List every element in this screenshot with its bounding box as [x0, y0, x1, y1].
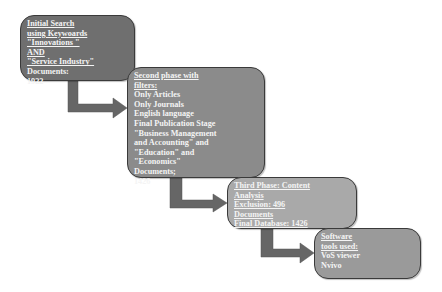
box-line: filters:	[134, 81, 258, 91]
box-line: English language	[134, 109, 258, 119]
box-line: Third Phase: Content	[234, 181, 350, 191]
box-line: "Innovations "	[27, 38, 128, 48]
box-line: Only Articles	[134, 90, 258, 100]
box-line: Documents;	[134, 167, 258, 177]
box-line: Documents:	[27, 67, 128, 77]
box-line: using Keywoards	[27, 29, 128, 39]
box-line: Initial Search	[27, 19, 128, 29]
box-line: Final Publication Stage	[134, 119, 258, 129]
box-line: "Business Management	[134, 129, 258, 139]
box-line: "Economics"	[134, 157, 258, 167]
box-line: "Service Industry"	[27, 57, 128, 67]
box-line: VoS viewer	[321, 251, 414, 261]
box-line: tools used:	[321, 242, 414, 252]
box-line: Second phase with	[134, 71, 258, 81]
box-line: "Education" and	[134, 148, 258, 158]
box-initial-search: Initial Search using Keywoards "Innovati…	[20, 15, 135, 81]
box-line: and Accounting" and	[134, 138, 258, 148]
box-line: Only Journals	[134, 100, 258, 110]
box-line: AND	[27, 48, 128, 58]
box-line: 1922	[27, 77, 128, 87]
box-second-phase: Second phase with filters: Only Articles…	[127, 67, 265, 178]
box-line: Analysis	[234, 191, 350, 201]
box-third-phase: Third Phase: Content Analysis Exclusion:…	[227, 177, 357, 229]
box-line: Nvivo	[321, 261, 414, 271]
box-software-tools: Software tools used: VoS viewer Nvivo	[314, 228, 421, 279]
box-line: Documents	[234, 210, 350, 220]
box-line: Exclusion: 496	[234, 200, 350, 210]
box-line: Software	[321, 232, 414, 242]
